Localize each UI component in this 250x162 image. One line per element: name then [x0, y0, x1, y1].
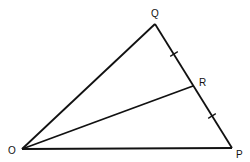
label-P: P — [236, 149, 243, 160]
label-R: R — [199, 77, 206, 88]
segment-OQ — [22, 24, 155, 149]
label-Q: Q — [151, 8, 159, 19]
segment-OP — [22, 148, 232, 149]
triangle-diagram: O P Q R — [0, 0, 250, 162]
label-O: O — [8, 145, 16, 156]
segment-QP — [155, 24, 232, 148]
segment-OR — [22, 86, 193, 149]
